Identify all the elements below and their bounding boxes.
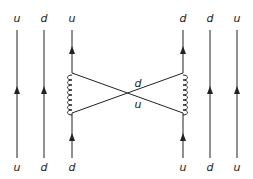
top-label-6: u bbox=[234, 13, 241, 24]
gluon-left bbox=[68, 75, 73, 115]
top-label-4: d bbox=[180, 13, 187, 24]
top-label-2: d bbox=[41, 13, 48, 24]
bottom-label-4: u bbox=[180, 162, 187, 173]
bottom-label-1: u bbox=[14, 162, 21, 173]
top-label-1: u bbox=[14, 13, 21, 24]
gluon-right bbox=[183, 75, 188, 115]
bottom-label-3: d bbox=[69, 162, 76, 173]
exchange-label-lower: u bbox=[135, 99, 142, 110]
quark-diagram bbox=[0, 0, 253, 179]
exchange-label-upper: d bbox=[135, 78, 142, 89]
bottom-label-2: d bbox=[41, 162, 48, 173]
bottom-label-6: u bbox=[234, 162, 241, 173]
bottom-label-5: d bbox=[207, 162, 214, 173]
top-label-5: d bbox=[207, 13, 214, 24]
top-label-3: u bbox=[69, 13, 76, 24]
